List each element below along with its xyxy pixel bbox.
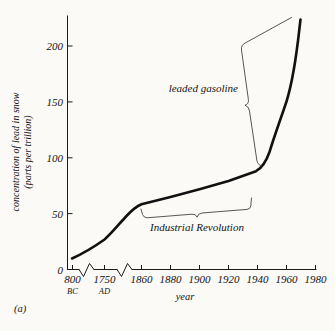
x-tick-label-1920: 1920	[218, 273, 241, 285]
figure-container: 0 50 100 150 200	[0, 0, 335, 331]
x-tick-label-1940: 1940	[247, 273, 270, 285]
x-tick-label-800bc: 800	[64, 273, 81, 285]
y-tick-label-150: 150	[47, 96, 64, 108]
y-tick-label-100: 100	[47, 152, 64, 164]
x-tick-labels: 800 1750 1860 1880 1900 1920 1940 1960 1…	[64, 273, 327, 296]
x-tick-label-1900: 1900	[189, 273, 212, 285]
x-tick-label-1750ad: 1750	[94, 273, 117, 285]
x-tick-label-1860: 1860	[131, 273, 154, 285]
x-tick-sublabel-bc: BC	[67, 286, 78, 296]
figure-label: (a)	[14, 303, 27, 315]
annotation-industrial-revolution: Industrial Revolution	[149, 221, 244, 233]
y-axis-title-line-1: concentration of lead in snow	[10, 92, 21, 211]
x-axis-title: year	[175, 291, 196, 302]
x-axis-break-mark-1	[79, 264, 94, 277]
x-tick-label-1880: 1880	[160, 273, 183, 285]
leaded-gasoline-brace	[241, 18, 291, 167]
annotation-leaded-gasoline: leaded gasoline	[169, 82, 238, 94]
y-axis-title: concentration of lead in snow (parts per…	[10, 92, 34, 211]
y-axis	[68, 16, 73, 270]
y-tick-label-50: 50	[52, 208, 64, 220]
lead-concentration-line-chart: 0 50 100 150 200	[0, 0, 335, 331]
x-tick-label-1980: 1980	[305, 273, 328, 285]
y-axis-title-line-2: (parts per trillion)	[22, 115, 34, 189]
y-tick-label-0: 0	[58, 264, 64, 276]
x-tick-sublabel-ad: AD	[98, 286, 111, 296]
y-tick-labels: 0 50 100 150 200	[47, 40, 64, 276]
x-tick-label-1960: 1960	[276, 273, 299, 285]
y-tick-label-200: 200	[47, 40, 64, 52]
